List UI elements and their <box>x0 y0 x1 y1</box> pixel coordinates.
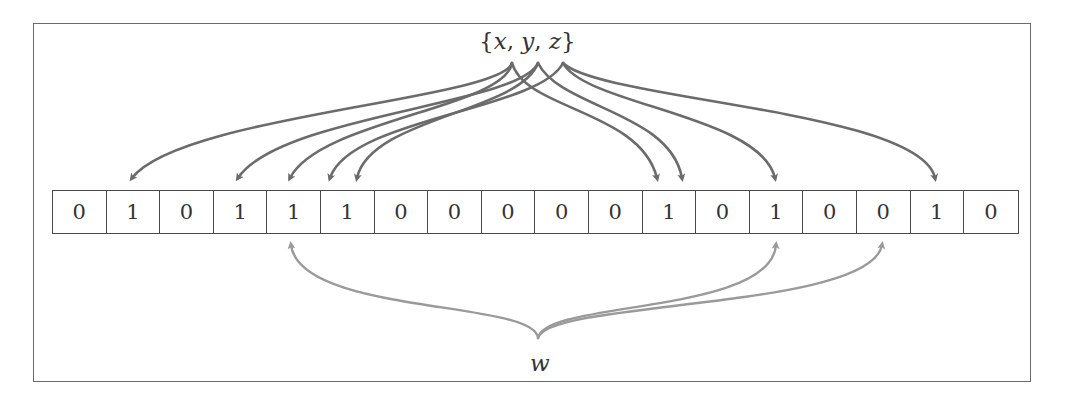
bit-cell-17: 0 <box>964 191 1018 233</box>
arrow-w-to-13 <box>538 245 776 338</box>
bit-cell-5: 1 <box>321 191 375 233</box>
arrow-x-to-1 <box>132 63 512 178</box>
close-brace: } <box>561 28 576 54</box>
bit-cell-14: 0 <box>803 191 857 233</box>
query-element-label: w <box>530 350 550 376</box>
bit-cell-4: 1 <box>267 191 321 233</box>
bit-cell-15: 0 <box>857 191 911 233</box>
insert-arrows <box>132 63 935 178</box>
arrow-z-to-16 <box>563 63 935 178</box>
bit-cell-8: 0 <box>482 191 536 233</box>
open-brace: { <box>479 28 494 54</box>
element-x: x <box>494 28 507 54</box>
bit-cell-11: 1 <box>643 191 697 233</box>
arrow-w-to-4 <box>291 245 538 338</box>
element-z: z <box>549 28 561 54</box>
sep-2: , <box>534 28 549 54</box>
bit-cell-1: 1 <box>107 191 161 233</box>
bit-cell-6: 0 <box>375 191 429 233</box>
inserted-set-label: {x, y, z} <box>479 28 576 54</box>
bit-cell-16: 1 <box>911 191 965 233</box>
arrow-y-to-5b <box>357 63 538 178</box>
bit-cell-10: 0 <box>589 191 643 233</box>
bit-cell-13: 1 <box>750 191 804 233</box>
bit-cell-3: 1 <box>214 191 268 233</box>
bit-array: 0 1 0 1 1 1 0 0 0 0 0 1 0 1 0 0 1 0 <box>52 190 1019 234</box>
query-arrows <box>291 245 882 338</box>
bit-cell-2: 0 <box>160 191 214 233</box>
bit-cell-12: 0 <box>696 191 750 233</box>
bit-cell-7: 0 <box>428 191 482 233</box>
bit-cell-0: 0 <box>53 191 107 233</box>
arrow-z-to-13 <box>563 63 775 178</box>
sep-1: , <box>507 28 522 54</box>
bit-cell-9: 0 <box>535 191 589 233</box>
element-y: y <box>521 28 534 54</box>
